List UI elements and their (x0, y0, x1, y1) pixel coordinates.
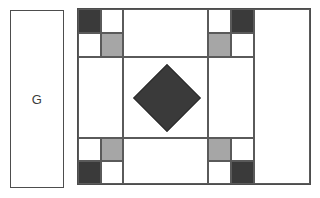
patch-tl-se (101, 33, 123, 57)
patch-br-se (231, 161, 254, 184)
patch-tr-sw (208, 33, 231, 57)
patch-right-sash (208, 57, 254, 138)
quilt-block-inner (78, 9, 310, 184)
label-panel-letter: G (11, 11, 63, 187)
label-panel-g: G (10, 10, 64, 188)
patch-br-sw (208, 161, 231, 184)
patch-tr-se (231, 33, 254, 57)
quilt-block-figure: G (0, 0, 320, 198)
patch-bl-ne (101, 138, 123, 161)
patch-right-column (254, 9, 310, 184)
patch-tl-ne (101, 9, 123, 33)
patch-left-sash (78, 57, 123, 138)
quilt-block-panel (77, 8, 311, 185)
patch-tr-nw (208, 9, 231, 33)
patch-bottom-sash (123, 138, 208, 184)
patch-bl-nw (78, 138, 101, 161)
patch-tr-ne (231, 9, 254, 33)
patch-br-ne (231, 138, 254, 161)
patch-br-nw (208, 138, 231, 161)
patch-tl-nw (78, 9, 101, 33)
patch-bl-sw (78, 161, 101, 184)
patch-bl-se (101, 161, 123, 184)
patch-top-sash (123, 9, 208, 57)
patch-tl-sw (78, 33, 101, 57)
